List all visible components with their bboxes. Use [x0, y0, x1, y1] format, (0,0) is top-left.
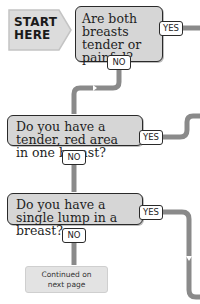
yes-tag-1[interactable]: YES	[159, 21, 183, 36]
yes-tag-2[interactable]: YES	[139, 130, 163, 145]
no-tag-3[interactable]: NO	[62, 228, 86, 243]
connector-q2-yes	[162, 116, 200, 137]
start-here-label: START HERE	[14, 16, 64, 42]
connector-q1-no	[74, 70, 119, 114]
question-box-1: Are both breasts tender or painful?	[75, 6, 163, 62]
continued-next-page-box[interactable]: Continued on next page	[25, 266, 108, 293]
start-here-marker: START HERE	[7, 8, 71, 50]
no-tag-2[interactable]: NO	[62, 150, 86, 165]
continued-label: Continued on next page	[41, 270, 91, 289]
connector-q3-yes	[162, 212, 200, 297]
yes-tag-3[interactable]: YES	[139, 205, 163, 220]
no-tag-1[interactable]: NO	[107, 55, 131, 70]
question-box-3: Do you have a single lump in a breast?	[7, 193, 143, 225]
question-box-2: Do you have a tender, red area in one br…	[7, 115, 143, 146]
